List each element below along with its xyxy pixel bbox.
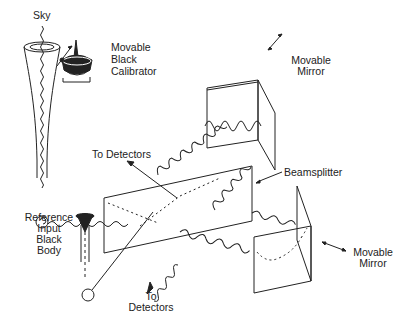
beamsplitter-label: Beamsplitter (284, 167, 342, 178)
calibrator-label-3: Calibrator (111, 66, 157, 77)
top-mirror (207, 34, 282, 170)
sky-label: Sky (33, 10, 51, 21)
to-detectors-bottom-label-2: Detectors (126, 302, 176, 313)
diagram-graphics (0, 0, 406, 329)
top-mirror-label-2: Mirror (286, 66, 336, 77)
reference-label-4: Body (20, 245, 78, 256)
to-detectors-top-label: To Detectors (92, 149, 151, 160)
calibrator-icon (57, 40, 92, 82)
interferometer-diagram: Sky Movable Black Calibrator Movable Mir… (0, 0, 406, 329)
calibrator-label-2: Black (111, 54, 137, 65)
sky-horn-icon (24, 26, 60, 228)
right-mirror-label-2: Mirror (348, 258, 398, 269)
calibrator-label-1: Movable (111, 42, 151, 53)
right-mirror (254, 186, 346, 293)
